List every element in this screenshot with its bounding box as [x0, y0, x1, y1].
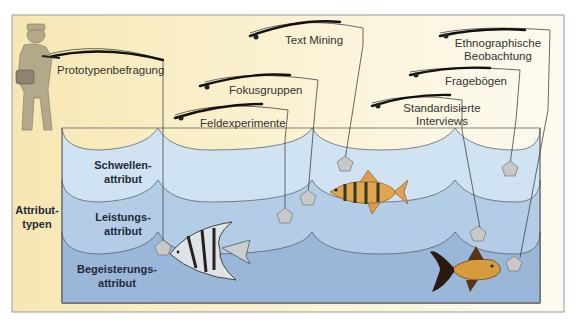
method-label-feldexperimente: Feldexperimente: [200, 117, 286, 130]
method-label-prototypenbefragung: Prototypenbefragung: [57, 64, 164, 77]
method-label-text-mining: Text Mining: [285, 34, 343, 47]
band-label-schwellen: Schwellen- attribut: [68, 158, 178, 186]
diagram: Prototypenbefragung Text Mining Fokusgru…: [0, 0, 575, 323]
band-label-leistungs: Leistungs- attribut: [68, 210, 178, 238]
method-label-frageboegen: Fragebögen: [445, 75, 507, 88]
method-label-standardisierte-interviews: Standardisierte Interviews: [396, 102, 488, 128]
band-label-begeisterungs: Begeisterungs- attribut: [62, 262, 172, 290]
method-label-ethnographische-beobachtung: Ethnographische Beobachtung: [440, 37, 556, 63]
side-label-attributtypen: Attribut- typen: [12, 203, 62, 231]
method-label-fokusgruppen: Fokusgruppen: [229, 84, 303, 97]
